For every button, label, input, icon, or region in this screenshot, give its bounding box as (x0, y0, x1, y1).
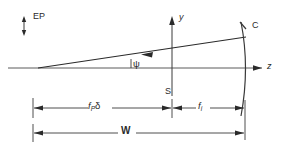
transverse-axis-group (169, 16, 175, 96)
entrance-pupil-arrowhead-down (22, 30, 26, 36)
dim-arrowhead-fi-start (173, 105, 182, 110)
dimension-label-w-main: W (121, 125, 130, 136)
chief-ray-line (38, 37, 246, 68)
chief-ray-group (38, 37, 246, 68)
z-axis-arrowhead (253, 65, 262, 71)
dimension-label-fp-delta-tail: δ (95, 100, 100, 111)
y-axis-arrowhead (169, 16, 175, 25)
dimension-row-lower (33, 124, 244, 142)
entrance-pupil-marker-group (22, 16, 26, 36)
mirror-label: C (252, 21, 259, 30)
z-axis-label: z (267, 62, 272, 71)
dimension-label-fi-sub: i (201, 105, 202, 112)
stop-label: S (165, 87, 171, 96)
dimension-label-fp-delta-sub: P (91, 105, 95, 112)
diagram-canvas (0, 0, 287, 150)
dim-arrowhead-fpdelta-end (162, 105, 171, 110)
dimension-row-upper (33, 98, 245, 140)
dimension-label-fi: fi (198, 101, 202, 111)
dim-arrowhead-w-end (235, 130, 244, 135)
mirror-top-tick (240, 22, 246, 29)
dim-arrowhead-w-start (34, 130, 43, 135)
entrance-pupil-label: EP (33, 12, 45, 21)
dimension-label-fp-delta: fPδ (88, 101, 100, 111)
dim-arrowhead-fpdelta-start (34, 105, 43, 110)
optical-diagram: EP y z ψ S C fPδ fi W (0, 0, 287, 150)
field-angle-label: ψ (133, 59, 140, 69)
dimension-label-w: W (121, 126, 130, 136)
entrance-pupil-arrowhead-up (22, 16, 26, 22)
y-axis-label: y (179, 13, 184, 22)
